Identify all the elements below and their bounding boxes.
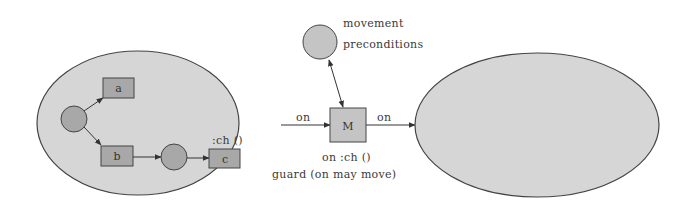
m-guard-label: guard (on may move) (272, 168, 396, 181)
node-b[interactable]: b (101, 146, 133, 166)
edge-m-to-right-label: on (377, 111, 391, 124)
precondition-node[interactable] (303, 25, 337, 59)
state-diagram: a b c :ch () on M movement preconditions… (0, 0, 693, 212)
precondition-label-line2: preconditions (343, 38, 423, 51)
precondition-label-line1: movement (343, 17, 404, 30)
right-state-ellipse (415, 53, 659, 197)
node-c-label: c (222, 153, 228, 166)
node-b-label: b (113, 150, 120, 163)
node-a[interactable]: a (103, 78, 134, 98)
m-event-label: on :ch () (322, 151, 371, 164)
junction-node[interactable] (161, 144, 187, 170)
edge-left-to-m-label: on (296, 111, 310, 124)
node-c-event-label: :ch () (212, 134, 243, 147)
node-a-label: a (115, 82, 122, 95)
start-node[interactable] (61, 106, 87, 132)
node-c[interactable]: c (209, 149, 240, 168)
node-m-label: M (342, 120, 353, 133)
node-m[interactable]: M (330, 108, 366, 142)
edge-m-precondition (329, 60, 343, 107)
right-state[interactable] (415, 53, 659, 197)
